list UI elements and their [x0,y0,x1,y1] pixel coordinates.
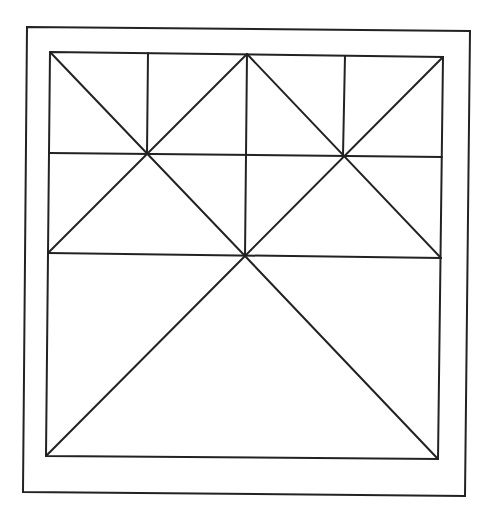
diag-center-to-br [245,256,438,459]
v-line-left [147,53,148,153]
diag-center-to-bl [46,256,245,456]
internal-lines [46,52,443,459]
v-line-center [245,54,247,256]
tangram-square-diagram [0,0,496,512]
diagram-canvas [0,0,496,512]
v-line-right [343,56,345,155]
